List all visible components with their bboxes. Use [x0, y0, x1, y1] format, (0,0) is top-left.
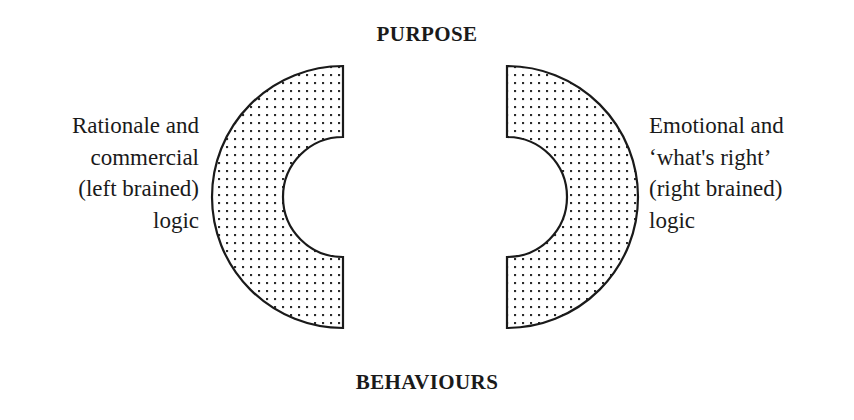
right-annotation-text: Emotional and ‘what's right’ (right brai…	[649, 110, 849, 236]
label-behaviours: BEHAVIOURS	[0, 370, 854, 395]
label-purpose: PURPOSE	[0, 22, 854, 47]
left-c-arc	[212, 66, 343, 328]
right-c-arc	[507, 66, 638, 328]
left-annotation-text: Rationale and commercial (left brained) …	[14, 110, 199, 236]
